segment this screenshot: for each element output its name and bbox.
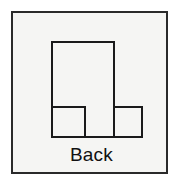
figure-panel: Back (11, 11, 168, 174)
back-view-diagram (13, 13, 170, 145)
figure-container (13, 13, 170, 145)
figure-caption: Back (13, 144, 170, 166)
left-step-block-shape (52, 107, 85, 137)
right-step-block-shape (114, 107, 142, 137)
screenshot-root: Back (0, 0, 184, 187)
